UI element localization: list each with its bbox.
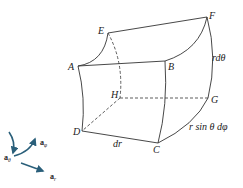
edge-AE [78, 33, 108, 66]
edge-HD [82, 98, 120, 131]
unit-vector-labels: aθ aφ ar [4, 138, 57, 182]
vertex-labels: E F A B H G D C [67, 10, 218, 155]
edge-BC [158, 61, 166, 143]
vertex-label-G: G [211, 94, 218, 105]
vertex-label-B: B [168, 61, 174, 72]
edge-BF [165, 17, 207, 61]
spherical-volume-element-diagram: E F A B H G D C rdθ r sin θ dφ dr aθ aφ … [0, 0, 243, 188]
vertex-label-C: C [153, 144, 160, 155]
edge-EF [108, 17, 207, 33]
a-r-arrow [21, 163, 43, 171]
a-theta-arrow [9, 132, 14, 153]
dim-r-sin-theta-dphi: r sin θ dφ [189, 121, 228, 132]
unit-vector-axes [9, 132, 43, 171]
a-theta-label: aθ [4, 153, 11, 163]
dim-r-dtheta: rdθ [212, 52, 226, 63]
dim-dr: dr [113, 138, 122, 149]
a-r-label: ar [50, 172, 57, 182]
edge-AD [78, 66, 83, 131]
vertex-label-E: E [97, 25, 104, 36]
vertex-label-H: H [110, 89, 119, 100]
a-phi-label: aφ [40, 138, 47, 148]
vertex-label-F: F [208, 10, 216, 21]
vertex-label-D: D [72, 126, 81, 137]
a-phi-arrow [14, 139, 35, 156]
vertex-label-A: A [67, 61, 75, 72]
